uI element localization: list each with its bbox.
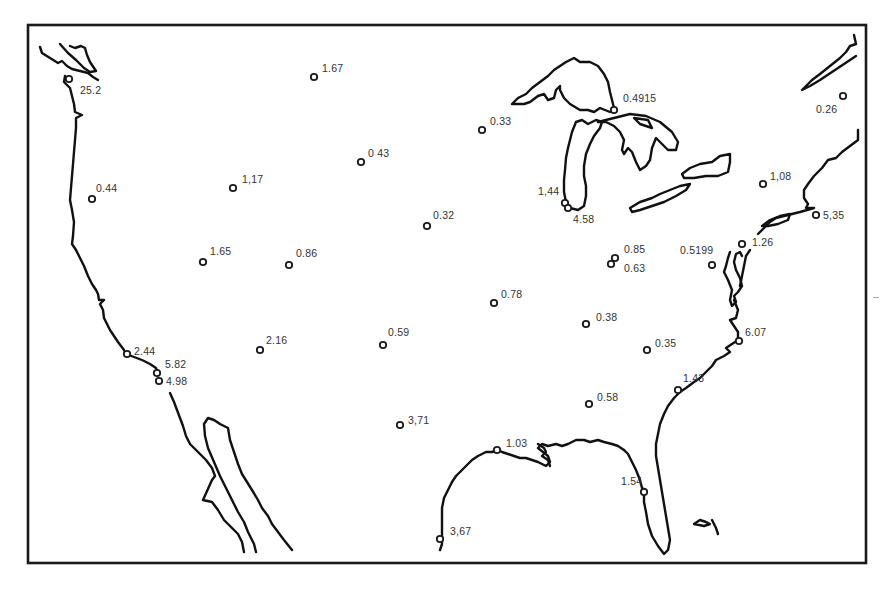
lake-ontario-outline bbox=[682, 154, 730, 178]
open-circle-icon bbox=[286, 262, 292, 268]
site-value-label: 0.85 bbox=[624, 244, 645, 255]
open-circle-icon bbox=[66, 76, 72, 82]
site-value-label: 1.03 bbox=[506, 438, 527, 449]
open-circle-icon bbox=[739, 241, 745, 247]
open-circle-icon bbox=[311, 74, 317, 80]
open-circle-icon bbox=[612, 255, 618, 261]
site-value-label: 1.54 bbox=[621, 476, 642, 487]
open-circle-icon bbox=[583, 321, 589, 327]
site-value-label: 1.67 bbox=[322, 63, 343, 74]
site-value-label: 0.35 bbox=[655, 338, 676, 349]
site-value-label: 0.38 bbox=[596, 312, 617, 323]
site-value-label: 1.43 bbox=[683, 373, 704, 384]
site-value-label: 0.5199 bbox=[680, 245, 713, 256]
atlantic-southeast-coastline bbox=[624, 300, 738, 554]
site-value-label: 4.58 bbox=[573, 214, 594, 225]
site-value-label: 1.26 bbox=[752, 237, 773, 248]
pacific-coastline bbox=[64, 76, 158, 374]
site-value-label: 0.33 bbox=[490, 116, 511, 127]
open-circle-icon bbox=[644, 347, 650, 353]
site-value-label: 5,35 bbox=[823, 210, 844, 221]
site-value-label: 4.98 bbox=[166, 376, 187, 387]
open-circle-icon bbox=[89, 196, 95, 202]
open-circle-icon bbox=[813, 212, 819, 218]
georgian-bay-island bbox=[634, 118, 652, 128]
site-value-label: 0.58 bbox=[597, 392, 618, 403]
open-circle-icon bbox=[437, 536, 443, 542]
open-circle-icon bbox=[565, 205, 571, 211]
open-circle-icon bbox=[200, 259, 206, 265]
open-circle-icon bbox=[611, 107, 617, 113]
site-value-label: 0.32 bbox=[433, 210, 454, 221]
site-value-label: 0.63 bbox=[624, 263, 645, 274]
edge-tick-mark bbox=[873, 297, 879, 298]
site-value-label: 3,67 bbox=[450, 526, 471, 537]
open-circle-icon bbox=[840, 93, 846, 99]
lake-michigan-outline bbox=[564, 120, 602, 210]
site-value-label: 0.78 bbox=[501, 289, 522, 300]
site-value-label: 1,17 bbox=[242, 174, 263, 185]
baja-east-coastline bbox=[204, 418, 292, 552]
open-circle-icon bbox=[479, 127, 485, 133]
open-circle-icon bbox=[641, 489, 647, 495]
open-circle-icon bbox=[586, 401, 592, 407]
site-value-label: 0.4915 bbox=[623, 93, 656, 104]
site-value-label: 6.07 bbox=[745, 327, 766, 338]
open-circle-icon bbox=[494, 447, 500, 453]
open-circle-icon bbox=[257, 347, 263, 353]
site-value-label: 0.59 bbox=[388, 327, 409, 338]
site-value-label: 1,08 bbox=[770, 171, 791, 182]
open-circle-icon bbox=[156, 378, 162, 384]
open-circle-icon bbox=[424, 223, 430, 229]
map-canvas bbox=[0, 0, 888, 589]
map-figure: 25.21.670.49150.260.330 431,170.441,081,… bbox=[0, 0, 888, 589]
open-circle-icon bbox=[154, 370, 160, 376]
site-value-label: 5.82 bbox=[165, 359, 186, 370]
map-frame bbox=[28, 25, 866, 563]
site-value-label: 1,44 bbox=[538, 186, 559, 197]
site-value-label: 3,71 bbox=[408, 415, 429, 426]
site-value-label: 2.16 bbox=[266, 335, 287, 346]
open-circle-icon bbox=[124, 351, 130, 357]
chesapeake-bay-outline bbox=[724, 252, 742, 306]
site-value-label: 25.2 bbox=[80, 85, 101, 96]
site-value-label: 0.26 bbox=[816, 104, 837, 115]
baja-west-coastline bbox=[170, 393, 244, 552]
bahamas-island-outline bbox=[694, 520, 710, 526]
open-circle-icon bbox=[608, 261, 614, 267]
puget-sound-inner-outline bbox=[60, 44, 96, 72]
open-circle-icon bbox=[358, 159, 364, 165]
open-circle-icon bbox=[736, 338, 742, 344]
open-circle-icon bbox=[230, 185, 236, 191]
open-circle-icon bbox=[397, 422, 403, 428]
lake-superior-outline bbox=[512, 58, 614, 112]
long-island-outline bbox=[762, 214, 790, 226]
site-value-label: 0 43 bbox=[368, 148, 389, 159]
site-value-label: 2.44 bbox=[134, 346, 155, 357]
bahamas-island-east bbox=[712, 520, 718, 534]
open-circle-icon bbox=[709, 262, 715, 268]
site-value-label: 1.65 bbox=[210, 246, 231, 257]
open-circle-icon bbox=[380, 342, 386, 348]
lake-erie-outline bbox=[630, 184, 690, 212]
site-value-label: 0.44 bbox=[96, 183, 117, 194]
site-value-label: 0.86 bbox=[296, 248, 317, 259]
open-circle-icon bbox=[675, 387, 681, 393]
open-circle-icon bbox=[491, 300, 497, 306]
open-circle-icon bbox=[760, 181, 766, 187]
st-lawrence-outline bbox=[802, 35, 856, 90]
site-markers-group bbox=[66, 74, 846, 542]
